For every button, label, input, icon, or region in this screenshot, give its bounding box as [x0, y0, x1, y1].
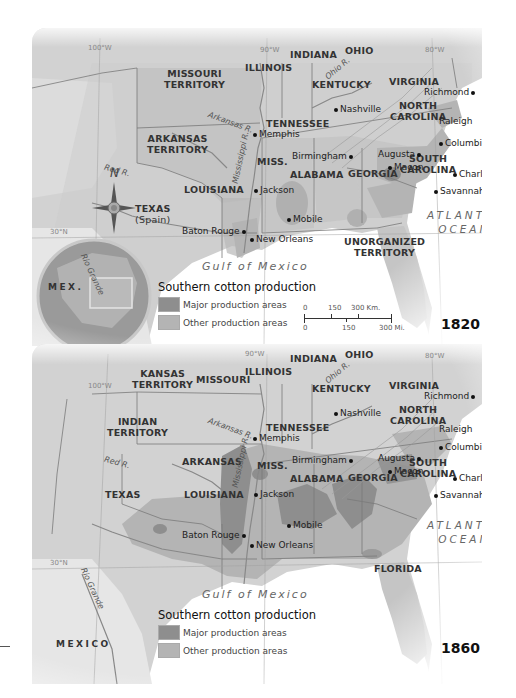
city-birmingham: Birmingham [292, 455, 355, 465]
gulf-label: Gulf of Mexico [202, 260, 309, 273]
city-charleston: Charleston [451, 169, 482, 179]
legend-item-major: Major production areas [158, 297, 316, 312]
map-1820: 100°W 90°W 80°W 30°N MISSOURITERRITORY A… [32, 28, 482, 346]
country-label-mexico: MEXICO [56, 639, 111, 649]
compass-north-label: N [110, 166, 119, 180]
state-label-arkansas-territory: ARKANSASTERRITORY [147, 133, 208, 155]
city-macon: Macon [386, 466, 423, 476]
year-label-1860: 1860 [441, 640, 480, 656]
state-label-kentucky: KENTUCKY [312, 79, 371, 90]
city-macon: Macon [386, 162, 423, 172]
city-memphis: Memphis [251, 129, 300, 139]
state-label-tennessee: TENNESSEE [266, 422, 329, 433]
city-columbia: Columbia [437, 138, 482, 148]
state-label-texas: TEXAS(Spain) [135, 203, 171, 225]
city-baton-rouge: Baton Rouge [182, 530, 248, 540]
state-label-louisiana: LOUISIANA [184, 184, 244, 195]
legend-1820: Southern cotton production Major product… [158, 280, 316, 330]
city-raleigh: Raleigh [439, 116, 473, 126]
map-1860: 100°W 90°W 80°W 30°N KANSASTERRITORY MIS… [32, 344, 482, 684]
city-savannah: Savannah [432, 490, 482, 500]
city-nashville: Nashville [332, 408, 381, 418]
city-mobile: Mobile [285, 520, 323, 530]
meridian-label: 80°W [425, 46, 444, 54]
ocean-label-atlantic: ATLANTICOCEAN [427, 518, 482, 546]
state-label-miss: MISS. [257, 460, 288, 471]
city-baton-rouge: Baton Rouge [182, 226, 248, 236]
state-label-indiana: INDIANA [290, 49, 337, 60]
legend-swatch-other [158, 643, 180, 658]
meridian-label: 100°W [88, 382, 112, 390]
state-label-kansas-territory: KANSASTERRITORY [132, 368, 193, 390]
state-label-louisiana: LOUISIANA [184, 489, 244, 500]
city-birmingham: Birmingham [292, 151, 355, 161]
state-label-missouri-territory: MISSOURITERRITORY [164, 68, 225, 90]
state-label-north-carolina: NORTHCAROLINA [390, 100, 446, 122]
legend-1860: Southern cotton production Major product… [158, 608, 316, 658]
state-label-kentucky: KENTUCKY [312, 383, 371, 394]
city-richmond: Richmond [424, 87, 477, 97]
city-savannah: Savannah [432, 186, 482, 196]
state-label-virginia: VIRGINIA [389, 76, 439, 87]
state-label-alabama: ALABAMA [290, 473, 344, 484]
state-label-miss: MISS. [257, 156, 288, 167]
state-label-illinois: ILLINOIS [245, 62, 292, 73]
legend-swatch-major [158, 297, 180, 312]
legend-item-other: Other production areas [158, 643, 316, 658]
state-label-indiana: INDIANA [290, 353, 337, 364]
parallel-label: 30°N [50, 228, 68, 236]
legend-swatch-other [158, 315, 180, 330]
state-label-tennessee: TENNESSEE [266, 118, 329, 129]
state-label-virginia: VIRGINIA [389, 380, 439, 391]
legend-swatch-major [158, 625, 180, 640]
city-richmond: Richmond [424, 391, 477, 401]
legend-title: Southern cotton production [158, 280, 316, 294]
city-nashville: Nashville [332, 104, 381, 114]
city-jackson: Jackson [252, 489, 294, 499]
ocean-label-atlantic: ATLANTICOCEAN [427, 208, 482, 236]
state-label-florida: FLORIDA [374, 563, 422, 574]
city-new-orleans: New Orleans [248, 234, 313, 244]
legend-title: Southern cotton production [158, 608, 316, 622]
page-rule [0, 646, 10, 647]
meridian-label: 90°W [260, 46, 279, 54]
city-jackson: Jackson [252, 185, 294, 195]
meridian-label: 90°W [245, 350, 264, 358]
city-augusta: Augusta [378, 149, 423, 159]
meridian-label: 100°W [88, 44, 112, 52]
state-label-north-carolina: NORTHCAROLINA [390, 404, 446, 426]
state-label-arkansas: ARKANSAS [182, 456, 242, 467]
legend-item-other: Other production areas [158, 315, 316, 330]
country-label-mexico: MEX. [48, 282, 83, 292]
legend-item-major: Major production areas [158, 625, 316, 640]
city-new-orleans: New Orleans [248, 540, 313, 550]
state-label-ohio: OHIO [345, 45, 373, 56]
city-memphis: Memphis [251, 433, 300, 443]
gulf-label: Gulf of Mexico [202, 588, 309, 601]
city-charleston: Charleston [451, 473, 482, 483]
city-raleigh: Raleigh [439, 424, 473, 434]
state-label-unorganized-territory: UNORGANIZEDTERRITORY [344, 236, 425, 258]
city-augusta: Augusta [378, 453, 423, 463]
state-label-texas: TEXAS [105, 489, 141, 500]
state-label-missouri: MISSOURI [196, 374, 251, 385]
state-label-alabama: ALABAMA [290, 169, 344, 180]
city-mobile: Mobile [285, 214, 323, 224]
meridian-label: 80°W [425, 352, 444, 360]
state-label-ohio: OHIO [345, 349, 373, 360]
state-label-indian-territory: INDIANTERRITORY [107, 416, 168, 438]
year-label-1820: 1820 [441, 316, 480, 332]
city-columbia: Columbia [437, 442, 482, 452]
state-label-illinois: ILLINOIS [245, 366, 292, 377]
scale-bar: 0 150 300 Km. 0 150 300 Mi. [304, 304, 399, 334]
parallel-label: 30°N [50, 559, 68, 567]
